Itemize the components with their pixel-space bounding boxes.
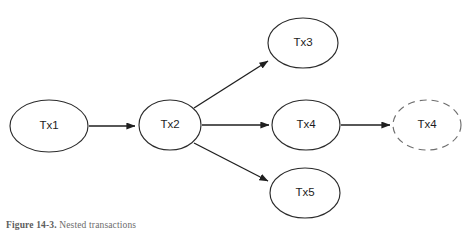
edge-tx2-tx3 bbox=[194, 61, 268, 108]
figure-container: Tx1 Tx2 Tx3 Tx4 Tx5 Tx4 Figure 14-3. Nes… bbox=[0, 0, 466, 231]
figure-caption-text: Nested transactions bbox=[59, 220, 136, 230]
node-tx5-label: Tx5 bbox=[295, 186, 314, 198]
node-tx4-label: Tx4 bbox=[296, 118, 316, 130]
transaction-graph-diagram: Tx1 Tx2 Tx3 Tx4 Tx5 Tx4 bbox=[0, 0, 466, 231]
node-tx1[interactable]: Tx1 bbox=[10, 100, 88, 152]
node-tx2[interactable]: Tx2 bbox=[139, 100, 201, 150]
node-tx4[interactable]: Tx4 bbox=[272, 100, 340, 150]
edge-group bbox=[89, 61, 390, 181]
node-tx5[interactable]: Tx5 bbox=[270, 168, 340, 218]
node-tx2-label: Tx2 bbox=[160, 118, 179, 130]
node-tx1-label: Tx1 bbox=[39, 119, 58, 131]
node-tx4-dashed-label: Tx4 bbox=[417, 118, 437, 130]
node-tx3-label: Tx3 bbox=[293, 36, 312, 48]
edge-tx2-tx5 bbox=[194, 143, 268, 181]
figure-caption-number: Figure 14-3. bbox=[6, 220, 57, 230]
node-tx4-dashed[interactable]: Tx4 bbox=[393, 100, 461, 150]
node-tx3[interactable]: Tx3 bbox=[268, 18, 338, 68]
figure-caption: Figure 14-3. Nested transactions bbox=[6, 219, 306, 231]
